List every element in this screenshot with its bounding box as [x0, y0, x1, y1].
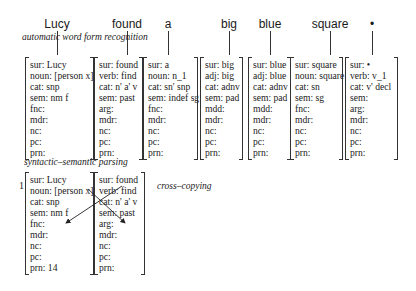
- arrow-lucy-to-found-arg: [88, 189, 125, 223]
- arrow-found-to-lucy-fnc: [66, 186, 122, 223]
- cross-copying-arrows: [0, 0, 416, 291]
